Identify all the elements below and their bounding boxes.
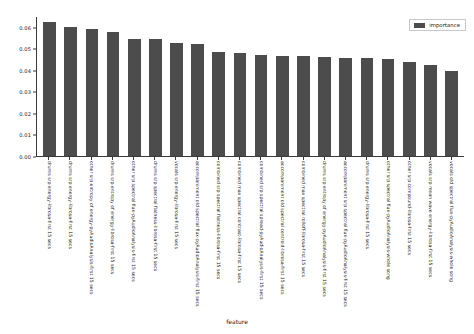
- bar-slot: [39, 17, 60, 156]
- x-tick-mark: [112, 157, 113, 160]
- x-label-slot: drums srp spectral flatness-librosa-firs…: [144, 161, 165, 311]
- y-axis: 0.000.010.020.030.040.050.06: [0, 17, 36, 157]
- bar: [191, 44, 204, 156]
- bar-slot: [420, 17, 441, 156]
- x-label-slot: other srp compound-librosa-first 15 secs: [398, 161, 419, 311]
- plot-area: [36, 17, 464, 157]
- x-tick-label: vocals old spectral flux-pyAudioAnalysis…: [449, 161, 454, 282]
- x-tick-slot: [229, 157, 250, 160]
- bar-slot: [251, 17, 272, 156]
- x-tick-slot: [102, 157, 123, 160]
- x-tick-label: accompaniment srp spectral flux-pyAudioA…: [343, 161, 348, 307]
- x-tick-slot: [59, 157, 80, 160]
- bar: [128, 39, 141, 156]
- x-tick-mark: [324, 157, 325, 160]
- x-tick-mark: [387, 157, 388, 160]
- bar-slot: [314, 17, 335, 156]
- legend-swatch-importance: [414, 23, 425, 28]
- x-tick-mark: [430, 157, 431, 160]
- bar-slot: [187, 17, 208, 156]
- x-tick-slot: [186, 157, 207, 160]
- x-label-slot: drums srp energy-librosa-first 15 secs: [356, 161, 377, 311]
- x-tick-mark: [366, 157, 367, 160]
- x-tick-mark: [218, 157, 219, 160]
- bar-slot: [102, 17, 123, 156]
- x-tick-slot: [38, 157, 59, 160]
- x-tick-label: accompaniment old spectral centroid-libr…: [279, 161, 284, 294]
- bar: [361, 58, 374, 156]
- bar-slot: [293, 17, 314, 156]
- x-label-slot: vocals old spectral flux-pyAudioAnalysis…: [441, 161, 462, 311]
- legend-label-importance: importance: [429, 22, 460, 28]
- bar: [149, 39, 162, 156]
- x-tick-mark: [409, 157, 410, 160]
- x-axis-title: feature: [0, 318, 474, 325]
- x-tick-slot: [80, 157, 101, 160]
- bar-slot: [60, 17, 81, 156]
- x-tick-label: drums srp spectral flatness-librosa-firs…: [152, 161, 157, 271]
- bar-slot: [208, 17, 229, 156]
- x-tick-mark: [133, 157, 134, 160]
- x-tick-slot: [420, 157, 441, 160]
- x-tick-slot: [398, 157, 419, 160]
- x-tick-mark: [345, 157, 346, 160]
- bar: [424, 65, 437, 156]
- x-tick-slot: [441, 157, 462, 160]
- x-tick-mark: [239, 157, 240, 160]
- bar: [64, 27, 77, 156]
- x-tick-mark: [260, 157, 261, 160]
- bar: [86, 29, 99, 157]
- x-tick-mark: [175, 157, 176, 160]
- x-tick-label: other srp spectral flux-pyAudioAnalysis-…: [385, 161, 390, 280]
- bar-series-importance: [37, 17, 464, 156]
- x-tick-slot: [377, 157, 398, 160]
- x-tick-mark: [91, 157, 92, 160]
- bar-slot: [166, 17, 187, 156]
- bar: [382, 59, 395, 156]
- y-tick-label: 0.02: [19, 111, 31, 117]
- x-tick-label: drums srp energy-librosa-first 15 secs: [67, 161, 72, 249]
- x-label-slot: other srp spectral flux-pyAudioAnalysis-…: [377, 161, 398, 311]
- x-tick-slot: [314, 157, 335, 160]
- x-tick-slot: [356, 157, 377, 160]
- x-tick-slot: [123, 157, 144, 160]
- bar: [107, 32, 120, 156]
- x-tick-label: vocals srp mean wave energy-librosa-firs…: [428, 161, 433, 277]
- x-label-slot: vocals srp mean wave energy-librosa-firs…: [420, 161, 441, 311]
- x-tick-slot: [335, 157, 356, 160]
- bar: [255, 55, 268, 156]
- bar-slot: [272, 17, 293, 156]
- x-tick-label: drums srp energy-librosa-first 15 secs: [46, 161, 51, 249]
- bar: [234, 53, 247, 156]
- x-tick-label: accompaniment old spectral flux-pyAudioA…: [195, 161, 200, 306]
- x-tick-label: other srp entropy of energy-pyAudioAnaly…: [89, 161, 94, 294]
- x-tick-mark: [451, 157, 452, 160]
- x-tick-slot: [165, 157, 186, 160]
- bar: [276, 56, 289, 156]
- x-tick-mark: [303, 157, 304, 160]
- x-tick-label: combined max spectral contrast-librosa-f…: [237, 161, 242, 283]
- bar-slot: [124, 17, 145, 156]
- x-tick-label: other srp spectral flux-pyAudioAnalysis-…: [131, 161, 136, 282]
- bar-slot: [378, 17, 399, 156]
- x-tick-mark: [154, 157, 155, 160]
- bar: [318, 57, 331, 156]
- x-label-slot: accompaniment old spectral centroid-libr…: [271, 161, 292, 311]
- y-tick-label: 0.00: [19, 154, 31, 160]
- x-label-slot: drums srp entropy of energy-librosa-firs…: [102, 161, 123, 311]
- figure-canvas: 0.000.010.020.030.040.050.06 drums srp e…: [0, 0, 474, 334]
- x-label-slot: combined max spectral contrast-librosa-f…: [229, 161, 250, 311]
- x-tick-mark: [69, 157, 70, 160]
- y-tick-label: 0.01: [19, 132, 31, 138]
- x-tick-label: combined max spectral rolloff-librosa-fi…: [301, 161, 306, 277]
- y-tick-label: 0.03: [19, 89, 31, 95]
- bar-slot: [399, 17, 420, 156]
- x-tick-slot: [250, 157, 271, 160]
- x-label-slot: drums srp energy-librosa-first 15 secs: [59, 161, 80, 311]
- x-label-slot: other srp entropy of energy-pyAudioAnaly…: [80, 161, 101, 311]
- bar: [43, 22, 56, 156]
- x-axis-tick-labels: drums srp energy-librosa-first 15 secsdr…: [36, 161, 464, 311]
- x-tick-label: drums srp energy-librosa-first 15 secs: [364, 161, 369, 249]
- bar: [170, 43, 183, 156]
- x-tick-label: combined srp spectral flatness-librosa-f…: [216, 161, 221, 279]
